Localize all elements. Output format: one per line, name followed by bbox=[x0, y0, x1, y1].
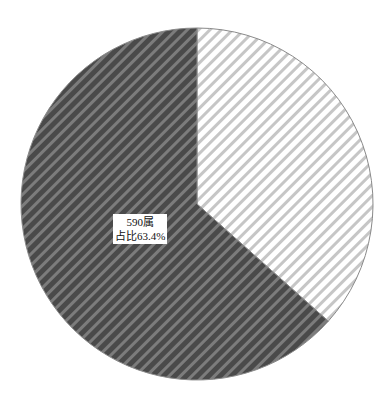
slice-label-count: 590属 bbox=[115, 215, 165, 229]
slice-label-percent: 占比63.4% bbox=[115, 229, 165, 243]
pie-chart bbox=[0, 0, 392, 409]
slice-label-dark: 590属 占比63.4% bbox=[113, 214, 167, 244]
pie-slices bbox=[21, 28, 373, 380]
